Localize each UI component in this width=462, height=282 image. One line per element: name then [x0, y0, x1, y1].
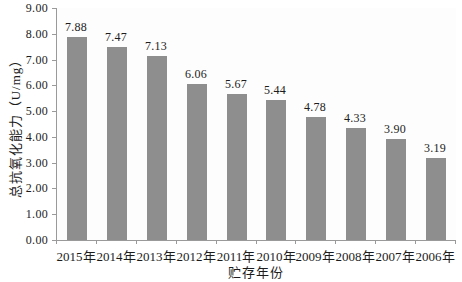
x-tick-mark: [56, 241, 57, 244]
bar: [306, 117, 326, 240]
bar-value-label: 3.90: [370, 122, 420, 137]
y-tick-mark: [52, 111, 56, 112]
x-tick-mark: [455, 241, 456, 244]
x-tick-label: 2008年: [335, 246, 375, 265]
x-tick-label: 2011年: [216, 246, 256, 265]
y-tick-label: 4.00: [2, 130, 48, 145]
bar: [187, 84, 207, 240]
x-tick-label: 2006年: [415, 246, 455, 265]
bar: [147, 56, 167, 240]
y-tick-mark: [52, 188, 56, 189]
y-tick-label: 2.00: [2, 181, 48, 196]
y-tick-label: 3.00: [2, 156, 48, 171]
x-tick-mark: [256, 241, 257, 244]
y-tick-label: 1.00: [2, 207, 48, 222]
y-tick-label: 5.00: [2, 104, 48, 119]
bar-value-label: 5.44: [250, 83, 300, 98]
x-tick-mark: [176, 241, 177, 244]
y-tick-mark: [52, 60, 56, 61]
x-tick-label: 2014年: [96, 246, 136, 265]
bar: [227, 94, 247, 240]
x-tick-label: 2012年: [176, 246, 216, 265]
y-tick-label: 7.00: [2, 53, 48, 68]
x-tick-label: 2010年: [256, 246, 296, 265]
x-tick-mark: [295, 241, 296, 244]
bar: [346, 128, 366, 240]
bar: [386, 139, 406, 240]
x-tick-mark: [216, 241, 217, 244]
bar: [426, 158, 446, 240]
bar: [266, 100, 286, 240]
bar: [107, 47, 127, 240]
y-tick-label: 8.00: [2, 27, 48, 42]
x-tick-label: 2015年: [56, 246, 96, 265]
y-tick-mark: [52, 137, 56, 138]
x-tick-label: 2013年: [136, 246, 176, 265]
y-tick-label: 9.00: [2, 1, 48, 16]
x-tick-label: 2007年: [375, 246, 415, 265]
bar-chart: 总抗氧化能力（U/mg） 贮存年份 0.001.002.003.004.005.…: [0, 0, 462, 282]
y-tick-label: 6.00: [2, 78, 48, 93]
y-tick-mark: [52, 85, 56, 86]
x-tick-mark: [96, 241, 97, 244]
x-tick-mark: [335, 241, 336, 244]
x-tick-mark: [375, 241, 376, 244]
bar-value-label: 7.13: [131, 39, 181, 54]
x-tick-mark: [415, 241, 416, 244]
y-tick-label: 0.00: [2, 233, 48, 248]
bar-value-label: 3.19: [410, 141, 460, 156]
y-tick-mark: [52, 163, 56, 164]
y-tick-mark: [52, 8, 56, 9]
x-tick-label: 2009年: [295, 246, 335, 265]
x-tick-mark: [136, 241, 137, 244]
y-tick-mark: [52, 214, 56, 215]
bar: [67, 37, 87, 240]
